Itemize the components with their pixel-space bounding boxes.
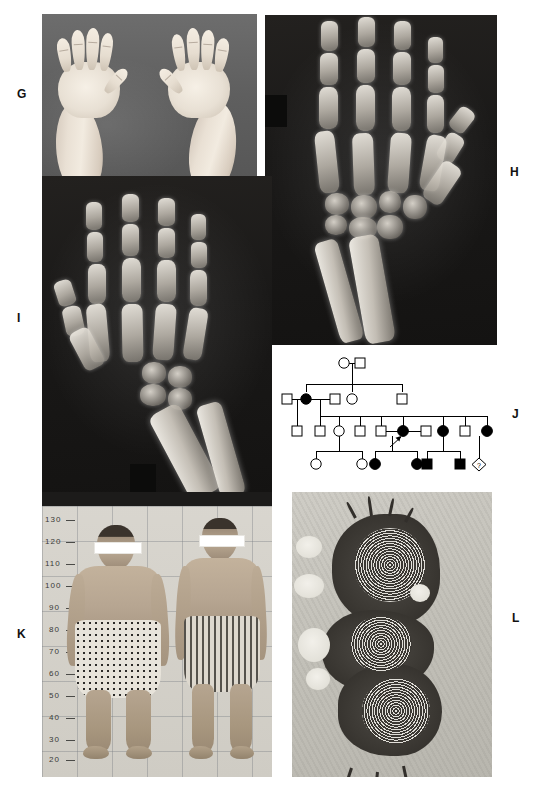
pedigree-symbol-III-6-female-affected-proband[interactable]: [398, 426, 409, 437]
scale-label-50: 50: [49, 692, 60, 700]
pedigree-symbol-III-10-female-affected[interactable]: [482, 426, 493, 437]
bone-carpal-hamate: [325, 193, 349, 215]
bone-i-distal-phalanx-5: [191, 214, 206, 240]
finger-right-2: [170, 33, 187, 71]
bone-i-middle-phalanx-4: [158, 228, 175, 258]
pedigree-symbol-II-2-female-affected[interactable]: [301, 394, 311, 404]
bone-i-metacarpal-4: [152, 303, 177, 360]
bone-i-metacarpal-3: [121, 304, 143, 362]
lamellar-whorl-3: [362, 678, 430, 744]
bone-i-carpal-b: [168, 366, 192, 388]
scale-label-70: 70: [49, 648, 60, 656]
bone-i-middle-phalanx-2: [87, 232, 103, 262]
scale-tick-60: [66, 674, 75, 675]
pedigree-symbol-IV-3-female-affected[interactable]: [370, 459, 381, 470]
panel-k-clinical-photograph: 130 120 110 100 90 80 70 60 50 40 30 20: [42, 492, 272, 777]
panel-label-i: I: [17, 312, 21, 324]
pedigree-symbol-II-3-male-unaffected[interactable]: [330, 394, 340, 404]
membrane-projection-2: [367, 496, 373, 516]
bone-i-proximal-phalanx-5: [190, 270, 207, 306]
finger-right-5: [212, 37, 230, 73]
pedigree-symbol-III-1-male-unaffected[interactable]: [292, 426, 302, 436]
membrane-projection-7: [402, 766, 409, 777]
pedigree-symbol-III-5-male-unaffected[interactable]: [376, 426, 386, 436]
pedigree-symbol-II-4-female-unaffected[interactable]: [347, 394, 357, 404]
panel-h-hand-radiograph: [265, 15, 497, 345]
bone-distal-phalanx-3: [358, 17, 375, 47]
scale-tick-40: [66, 718, 75, 719]
subject-left-eye-mask: [94, 542, 142, 554]
subject-right-leg-left: [192, 684, 214, 752]
scale-label-100: 100: [45, 582, 61, 590]
pedigree-symbol-IV-2-female-unaffected[interactable]: [357, 459, 367, 469]
film-notch-h: [265, 95, 287, 127]
pedigree-symbol-III-9-male-unaffected[interactable]: [460, 426, 470, 436]
pedigree-symbol-III-4-male-unaffected[interactable]: [355, 426, 365, 436]
scale-label-60: 60: [49, 670, 60, 678]
pedigree-symbol-II-1-male-unaffected[interactable]: [282, 394, 292, 404]
bone-carpal-triquetrum: [325, 215, 347, 235]
pedigree-symbol-IV-1-female-unaffected[interactable]: [311, 459, 321, 469]
scale-label-130: 130: [45, 516, 61, 524]
panel-j-pedigree-chart: ?: [280, 348, 508, 478]
membrane-projection-6: [374, 772, 379, 777]
pedigree-symbol-III-7-male-unaffected[interactable]: [421, 426, 431, 436]
bone-proximal-phalanx-5: [427, 95, 444, 133]
bone-i-distal-phalanx-2: [86, 202, 102, 230]
scale-tick-20: [66, 760, 75, 761]
vacuole-3: [298, 628, 330, 662]
vacuole-2: [294, 574, 324, 598]
bone-i-middle-phalanx-5: [191, 242, 207, 268]
subject-right-foot-right: [230, 746, 254, 759]
pedigree-diagram: ?: [280, 348, 508, 478]
panel-label-l: L: [512, 612, 520, 624]
bone-carpal-trapezoid: [379, 191, 401, 213]
bone-middle-phalanx-2: [320, 53, 338, 85]
bone-proximal-phalanx-4: [392, 87, 411, 131]
panel-label-j: J: [512, 408, 519, 420]
pedigree-symbol-III-2-male-unaffected[interactable]: [315, 426, 325, 436]
subject-left-leg-left: [86, 690, 111, 752]
bone-distal-phalanx-2: [321, 21, 338, 51]
bone-proximal-phalanx-2: [319, 87, 338, 129]
subject-right-eye-mask: [199, 535, 245, 547]
lamellar-whorl-2: [350, 616, 412, 672]
bone-i-proximal-phalanx-2: [88, 264, 106, 304]
bone-middle-phalanx-5: [428, 65, 444, 93]
scale-label-90: 90: [49, 604, 60, 612]
pedigree-symbol-IV-5-male-affected[interactable]: [422, 459, 432, 469]
bone-i-distal-phalanx-3: [122, 194, 139, 222]
scale-tick-120: [66, 542, 75, 543]
bone-carpal-trapezium: [403, 195, 427, 219]
bone-middle-phalanx-4: [393, 52, 411, 85]
bone-i-middle-phalanx-3: [122, 224, 139, 256]
bone-i-carpal-a: [142, 362, 166, 384]
pedigree-connector-lines: [292, 363, 487, 459]
pedigree-symbol-I-2-male-unaffected[interactable]: [355, 358, 365, 368]
bone-i-carpal-c: [140, 384, 166, 406]
bone-thumb-distal-phalanx: [447, 104, 477, 136]
pedigree-symbol-I-1-female-unaffected[interactable]: [339, 358, 349, 368]
bone-i-proximal-phalanx-4: [157, 260, 176, 302]
scale-label-40: 40: [49, 714, 60, 722]
bone-carpal-capitate: [351, 195, 377, 219]
pedigree-symbol-III-8-female-affected[interactable]: [438, 426, 449, 437]
finger-right-3: [186, 28, 200, 70]
finger-left-2: [98, 32, 115, 71]
pedigree-symbol-IV-4-female-affected[interactable]: [412, 459, 423, 470]
bone-metacarpal-3: [352, 133, 375, 196]
scale-tick-30: [66, 740, 75, 741]
scale-tick-110: [66, 564, 75, 565]
pedigree-symbol-II-5-male-unaffected[interactable]: [397, 394, 407, 404]
scale-label-80: 80: [49, 626, 60, 634]
pedigree-symbol-III-3-female-unaffected[interactable]: [334, 426, 344, 436]
subject-right-shorts: [184, 616, 260, 692]
membrane-projection-5: [345, 768, 353, 777]
subject-left-foot-right: [126, 746, 152, 759]
panel-label-h: H: [510, 166, 519, 178]
bone-middle-phalanx-3: [357, 49, 375, 83]
pedigree-symbol-IV-6-male-affected[interactable]: [455, 459, 465, 469]
bone-metacarpal-2: [314, 130, 340, 194]
scale-label-120: 120: [45, 538, 61, 546]
panel-g-hands-photograph: [42, 14, 257, 192]
